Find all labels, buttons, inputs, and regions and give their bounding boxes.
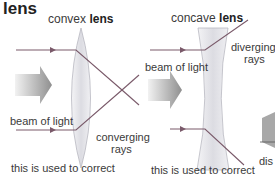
concave-rays-label-2: rays [244,53,265,65]
cropped-right-figure [260,112,275,148]
convex-lens-shape [72,28,91,168]
concave-heading-prefix: concave [171,11,216,25]
concave-caption: this is used to correct [151,164,255,176]
convex-heading-prefix: convex [48,12,86,26]
concave-rays-label-1: diverging [231,41,275,53]
concave-heading-bold: lens [219,11,243,25]
concave-beam-arrow-icon [148,71,182,109]
convex-beam-label: beam of light [10,115,73,127]
convex-heading-bold: lens [89,12,113,26]
convex-rays-label-1: converging [96,131,150,143]
concave-lens-shape [197,28,229,170]
page-title: lens [3,0,37,18]
cropped-right-label: dis [259,155,273,167]
convex-lens-heading: convex lens [48,13,113,25]
concave-lens-heading: concave lens [171,12,243,24]
lens-diagram: lens convex lens beam of light convergin… [0,0,275,177]
convex-caption: this is used to correct [11,162,115,174]
convex-rays-label-2: rays [111,143,132,155]
convex-beam-arrow-icon [15,66,52,104]
concave-beam-label: beam of light [145,61,208,73]
diagram-graphics [0,0,275,177]
